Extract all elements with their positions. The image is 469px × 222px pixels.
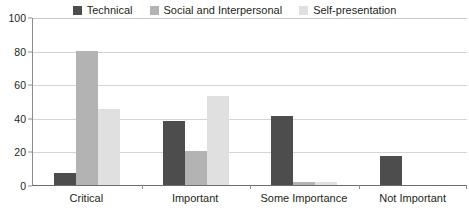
bar: [207, 96, 229, 185]
bar-chart: Technical Social and Interpersonal Self-…: [0, 0, 469, 222]
bar: [76, 51, 98, 185]
y-axis-tick-label: 40: [14, 114, 26, 125]
bar: [293, 182, 315, 185]
x-axis-divider: [359, 185, 360, 189]
plot-area: [32, 18, 467, 186]
bar: [380, 156, 402, 185]
x-axis: CriticalImportantSome ImportanceNot Impo…: [32, 192, 467, 210]
legend-item-social-and-interpersonal: Social and Interpersonal: [150, 5, 283, 16]
bars-layer: [33, 18, 467, 185]
y-axis-tick-label: 60: [14, 80, 26, 91]
legend-swatch-icon: [150, 6, 159, 15]
bar: [271, 116, 293, 185]
x-axis-divider: [142, 185, 143, 189]
legend-item-technical: Technical: [73, 5, 133, 16]
bar: [185, 151, 207, 185]
y-axis-tick-label: 20: [14, 147, 26, 158]
legend-label: Social and Interpersonal: [164, 5, 283, 16]
x-axis-category-label: Not Important: [358, 192, 467, 210]
legend-item-self-presentation: Self-presentation: [299, 5, 396, 16]
bar-group: [250, 18, 359, 185]
bar-group: [33, 18, 142, 185]
legend-swatch-icon: [73, 6, 82, 15]
bar-group: [142, 18, 251, 185]
bar: [54, 173, 76, 185]
legend-label: Technical: [87, 5, 133, 16]
x-axis-category-label: Some Importance: [250, 192, 359, 210]
x-axis-category-label: Critical: [32, 192, 141, 210]
y-axis-tick-label: 80: [14, 46, 26, 57]
legend-label: Self-presentation: [313, 5, 396, 16]
x-axis-category-label: Important: [141, 192, 250, 210]
legend-swatch-icon: [299, 6, 308, 15]
bar: [98, 109, 120, 185]
y-axis-tick-label: 0: [20, 181, 26, 192]
x-axis-divider: [250, 185, 251, 189]
x-axis-end-tick: [466, 185, 467, 189]
bar: [315, 182, 337, 185]
bar: [163, 121, 185, 185]
plot-wrapper: 020406080100 CriticalImportantSome Impor…: [0, 18, 469, 222]
y-axis-tick-label: 100: [8, 13, 26, 24]
y-axis: 020406080100: [0, 18, 26, 186]
bar-group: [359, 18, 468, 185]
chart-legend: Technical Social and Interpersonal Self-…: [0, 2, 469, 18]
